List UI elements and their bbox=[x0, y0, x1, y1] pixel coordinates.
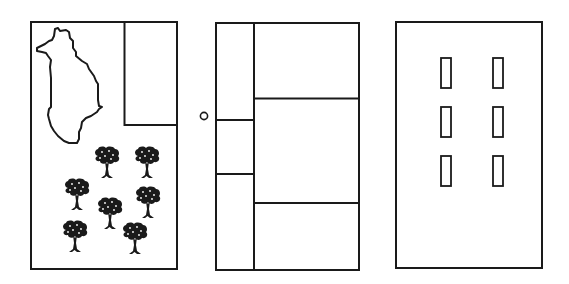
panel-1 bbox=[31, 22, 177, 269]
slot-rect bbox=[493, 58, 503, 88]
tree-icon bbox=[98, 198, 122, 229]
island-outline-icon bbox=[37, 28, 102, 143]
panel-2-frame bbox=[216, 23, 359, 270]
panel-3-frame bbox=[396, 22, 542, 268]
marker-circle-icon bbox=[200, 112, 207, 119]
slot-rect bbox=[493, 107, 503, 137]
panel-2 bbox=[200, 23, 359, 270]
tree-icon bbox=[136, 187, 160, 218]
slot-rect bbox=[441, 156, 451, 186]
slot-rect bbox=[441, 107, 451, 137]
tree-icon bbox=[135, 147, 159, 178]
panel-3 bbox=[396, 22, 542, 268]
panel-1-frame bbox=[31, 22, 177, 269]
slot-rect bbox=[441, 58, 451, 88]
tree-icon bbox=[63, 221, 87, 252]
tree-icon bbox=[65, 179, 89, 210]
diagram-canvas bbox=[0, 0, 569, 284]
slot-rect bbox=[493, 156, 503, 186]
tree-icon bbox=[95, 147, 119, 178]
panel-1-inset-rect bbox=[125, 22, 178, 125]
tree-icon bbox=[123, 223, 147, 254]
